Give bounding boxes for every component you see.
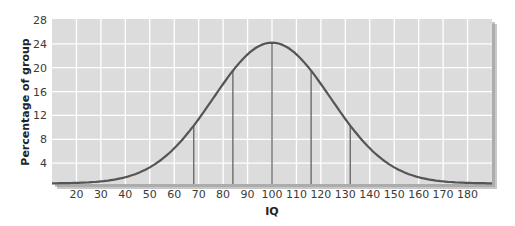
y-tick-label: 4	[40, 157, 47, 170]
x-tick-label: 150	[384, 188, 405, 201]
y-tick-label: 24	[33, 38, 47, 51]
x-tick-label: 90	[241, 188, 255, 201]
y-tick-label: 16	[33, 86, 47, 99]
x-tick-label: 60	[167, 188, 181, 201]
x-tick-label: 180	[457, 188, 478, 201]
x-tick-label: 110	[286, 188, 307, 201]
y-tick-label: 8	[40, 133, 47, 146]
x-tick-label: 160	[408, 188, 429, 201]
y-axis-ticks: 481216202428	[33, 14, 47, 170]
y-tick-label: 20	[33, 62, 47, 75]
x-tick-label: 140	[359, 188, 380, 201]
x-tick-label: 30	[94, 188, 108, 201]
y-tick-label: 28	[33, 14, 47, 27]
x-tick-label: 170	[433, 188, 454, 201]
x-tick-label: 50	[143, 188, 157, 201]
x-tick-label: 100	[262, 188, 283, 201]
x-tick-label: 80	[216, 188, 230, 201]
x-tick-label: 130	[335, 188, 356, 201]
y-axis-label: Percentage of group	[19, 38, 32, 165]
x-tick-label: 20	[69, 188, 83, 201]
x-tick-label: 70	[192, 188, 206, 201]
iq-distribution-chart: 481216202428 203040506070809010011012013…	[0, 0, 515, 226]
x-axis-label: IQ	[265, 205, 278, 218]
y-tick-label: 12	[33, 109, 47, 122]
x-axis-ticks: 2030405060708090100110120130140150160170…	[69, 188, 478, 201]
x-tick-label: 40	[118, 188, 132, 201]
x-tick-label: 120	[310, 188, 331, 201]
